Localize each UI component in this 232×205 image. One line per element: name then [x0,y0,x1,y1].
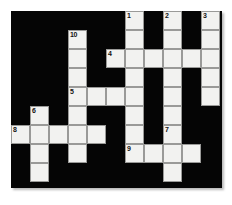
crossword-cell[interactable] [163,163,182,182]
crossword-screenshot: 12310456789 [0,0,232,205]
crossword-cell[interactable] [49,125,68,144]
clue-number: 5 [70,88,74,96]
crossword-cell[interactable] [30,125,49,144]
crossword-cell[interactable] [68,144,87,163]
crossword-cell[interactable] [182,144,201,163]
crossword-cell[interactable] [201,30,220,49]
crossword-cell[interactable] [106,87,125,106]
crossword-cell[interactable] [163,49,182,68]
crossword-cell[interactable] [30,144,49,163]
clue-number: 1 [127,12,131,20]
clue-number: 9 [127,145,131,153]
crossword-cell[interactable] [125,125,144,144]
crossword-cell[interactable]: 1 [125,11,144,30]
crossword-cell[interactable] [201,87,220,106]
crossword-cell[interactable] [68,49,87,68]
clue-number: 4 [108,50,112,58]
crossword-cell[interactable] [163,106,182,125]
crossword-cell[interactable] [163,68,182,87]
clue-number: 6 [32,107,36,115]
crossword-cell[interactable]: 9 [125,144,144,163]
crossword-cell[interactable] [125,30,144,49]
crossword-cell[interactable] [163,87,182,106]
crossword-cell[interactable]: 3 [201,11,220,30]
crossword-cell[interactable] [201,49,220,68]
clue-number: 3 [203,12,207,20]
crossword-cell[interactable]: 10 [68,30,87,49]
crossword-grid[interactable]: 12310456789 [11,11,222,188]
clue-number: 2 [165,12,169,20]
crossword-cell[interactable]: 7 [163,125,182,144]
clue-number: 10 [70,31,77,39]
crossword-cell[interactable]: 2 [163,11,182,30]
crossword-cell[interactable]: 8 [11,125,30,144]
crossword-cell[interactable] [163,30,182,49]
crossword-cell[interactable] [201,68,220,87]
clue-number: 8 [13,126,17,134]
crossword-cell[interactable] [87,125,106,144]
crossword-cell[interactable] [30,163,49,182]
clue-number: 7 [165,126,169,134]
crossword-cell[interactable] [182,49,201,68]
crossword-cell[interactable] [125,106,144,125]
crossword-cell[interactable] [125,49,144,68]
crossword-cell[interactable]: 6 [30,106,49,125]
crossword-cell[interactable] [68,125,87,144]
crossword-cell[interactable] [163,144,182,163]
crossword-cell[interactable] [125,68,144,87]
crossword-cell[interactable] [68,106,87,125]
crossword-cell[interactable]: 4 [106,49,125,68]
crossword-cell[interactable] [125,87,144,106]
crossword-cell[interactable] [87,87,106,106]
crossword-cell[interactable] [68,68,87,87]
crossword-cell[interactable] [144,49,163,68]
crossword-cell[interactable]: 5 [68,87,87,106]
crossword-cell[interactable] [144,144,163,163]
